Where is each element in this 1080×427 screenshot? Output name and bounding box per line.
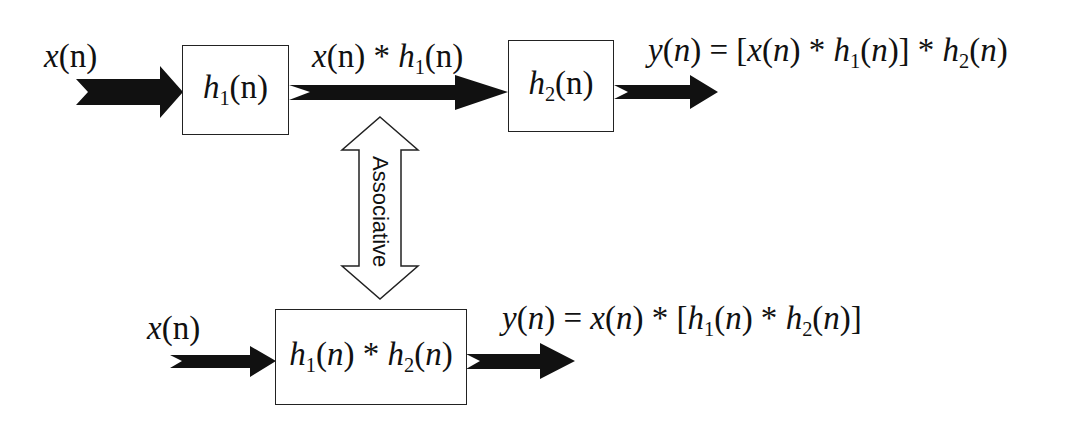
block-h2: h2(n) xyxy=(508,40,614,132)
bottom-output-equation: y(n) = x(n) * [h1(n) * h2(n)] xyxy=(502,302,862,340)
block-h1-label: h1(n) xyxy=(203,71,268,109)
block-h1-conv-h2: h1(n) * h2(n) xyxy=(275,309,467,405)
top-output-arrow xyxy=(614,75,718,109)
block-h1: h1(n) xyxy=(182,45,289,135)
bottom-input-arrow xyxy=(170,346,276,377)
top-output-equation: y(n) = [x(n) * h1(n)] * h2(n) xyxy=(648,34,1008,72)
top-input-label: x(n) xyxy=(44,40,97,73)
intermediate-label: x(n) * h1(n) xyxy=(312,40,463,78)
bottom-output-arrow xyxy=(466,343,575,379)
associative-label: Associative xyxy=(367,156,393,264)
block-h2-label: h2(n) xyxy=(528,67,593,105)
intermediate-arrow xyxy=(289,75,508,110)
bottom-input-label: x(n) xyxy=(147,312,200,345)
block-h1-conv-h2-label: h1(n) * h2(n) xyxy=(289,338,452,376)
